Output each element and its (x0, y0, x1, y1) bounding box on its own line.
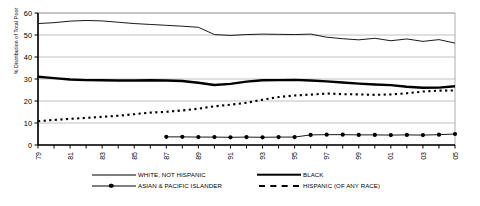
x-tick-label: 1993 (259, 152, 266, 160)
legend-item-hispanic: HISPANIC (OF ANY RACE) (257, 181, 380, 190)
x-tick-label: 1979 (35, 152, 42, 160)
x-tick-label: 1987 (163, 152, 170, 160)
legend-key-dashed-icon (257, 181, 301, 190)
legend-item-white: WHITE, NOT HISPANIC (92, 170, 206, 179)
series-marker (212, 135, 216, 139)
legend-item-black: BLACK (257, 170, 323, 179)
x-tick-label: 1983 (99, 152, 106, 160)
series-marker (260, 135, 264, 139)
series-marker (196, 135, 200, 139)
series-marker (293, 135, 297, 139)
legend-key-solid-thin-icon (92, 170, 136, 179)
y-tick-label: 40 (24, 53, 32, 62)
series-marker (276, 135, 280, 139)
series-marker (244, 135, 248, 139)
series-line-black (38, 77, 455, 88)
series-line-white-not-hispanic (38, 20, 455, 43)
series-marker (373, 133, 377, 137)
legend-label-hispanic: HISPANIC (OF ANY RACE) (303, 182, 380, 189)
y-tick-label: 50 (24, 31, 32, 40)
x-tick-label: 1997 (323, 152, 330, 160)
series-marker (357, 133, 361, 137)
y-tick-label: 10 (24, 119, 32, 128)
series-line-hispanic-of-any-race (38, 90, 455, 121)
x-tick-label: 1981 (67, 152, 74, 160)
x-tick-label: 2005 (452, 152, 459, 160)
chart-legend: WHITE, NOT HISPANIC BLACK ASIAN & PACIFI… (0, 168, 480, 206)
legend-label-white: WHITE, NOT HISPANIC (138, 171, 206, 178)
x-tick-label: 1991 (227, 152, 234, 160)
legend-item-asian: ASIAN & PACIFIC ISLANDER (92, 181, 222, 190)
series-marker (325, 133, 329, 137)
y-tick-label: 20 (24, 97, 32, 106)
x-tick-label: 2001 (387, 152, 394, 160)
y-tick-label: 60 (24, 9, 32, 18)
x-tick-label: 1985 (131, 152, 138, 160)
series-marker (341, 133, 345, 137)
series-marker (405, 133, 409, 137)
legend-key-solid-thick-icon (257, 170, 301, 179)
series-marker (421, 133, 425, 137)
series-marker (309, 133, 313, 137)
x-tick-label: 2003 (420, 152, 427, 160)
series-marker (180, 135, 184, 139)
x-tick-label: 1989 (195, 152, 202, 160)
x-tick-label: 1995 (291, 152, 298, 160)
y-tick-label: 0 (28, 141, 32, 150)
legend-label-black: BLACK (303, 171, 323, 178)
chart-container: % Distribution of Total Poor 01020304050… (0, 0, 480, 206)
plot-area: % Distribution of Total Poor 01020304050… (0, 0, 480, 160)
series-marker (389, 133, 393, 137)
chart-svg: 0102030405060197919811983198519871989199… (0, 0, 480, 160)
series-marker (164, 135, 168, 139)
legend-key-marker-icon (92, 181, 136, 190)
series-marker (437, 133, 441, 137)
series-marker (453, 132, 457, 136)
legend-label-asian: ASIAN & PACIFIC ISLANDER (138, 182, 222, 189)
series-marker (228, 135, 232, 139)
x-tick-label: 1999 (355, 152, 362, 160)
y-tick-label: 30 (24, 75, 32, 84)
